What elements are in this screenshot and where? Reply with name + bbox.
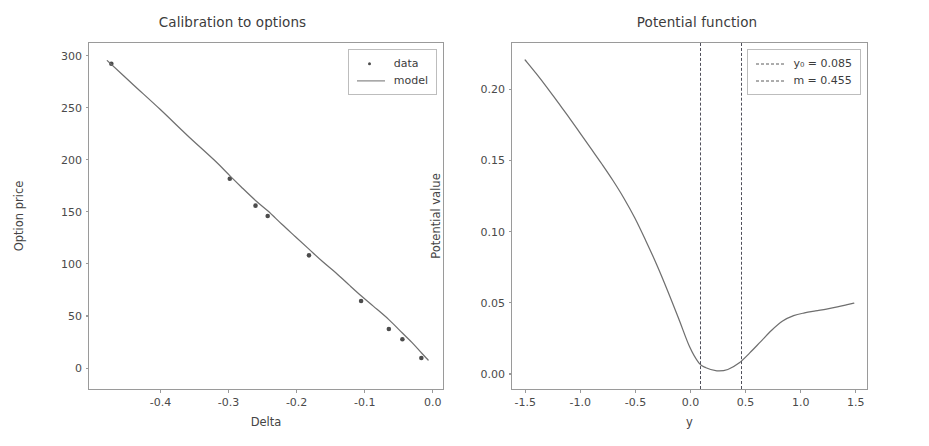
y-tick-mark <box>509 160 513 161</box>
panel-potential-function: Potential function 0.000.050.100.150.20 … <box>465 0 929 446</box>
x-tick-label: 1.0 <box>792 396 810 409</box>
data-point <box>387 327 392 332</box>
y-axis-label-right: Potential value <box>428 173 442 258</box>
y-tick-mark <box>86 55 90 56</box>
x-tick-label: -0.4 <box>150 396 171 409</box>
x-tick-label: -0.2 <box>286 396 307 409</box>
dashdot-line-icon-2 <box>754 74 786 88</box>
series-line-model <box>107 61 428 360</box>
y-tick-mark <box>509 231 513 232</box>
y-tick-label: 0.20 <box>481 83 506 96</box>
x-tick-mark <box>525 389 526 393</box>
legend-label-model: model <box>394 74 428 87</box>
y-tick-mark <box>86 159 90 160</box>
y-tick-label: 250 <box>61 101 82 114</box>
vline-m <box>741 43 742 389</box>
x-tick-label: -1.0 <box>570 396 591 409</box>
x-tick-mark <box>855 389 856 393</box>
y-tick-label: 150 <box>61 205 82 218</box>
y-tick-label: 50 <box>68 309 82 322</box>
y-tick-label: 0.10 <box>481 225 506 238</box>
x-tick-mark <box>635 389 636 393</box>
y-tick-mark <box>86 315 90 316</box>
x-tick-label: 0.5 <box>737 396 755 409</box>
y-tick-label: 0 <box>75 362 82 375</box>
x-tick-mark <box>296 389 297 393</box>
legend-label-y0: y₀ = 0.085 <box>793 57 852 70</box>
y-tick-label: 300 <box>61 49 82 62</box>
y-tick-label: 0.15 <box>481 154 506 167</box>
y-tick-mark <box>86 368 90 369</box>
y-tick-mark <box>86 107 90 108</box>
x-tick-mark <box>745 389 746 393</box>
y-axis-label-left: Option price <box>13 181 27 252</box>
x-tick-label: 0.0 <box>682 396 700 409</box>
x-tick-mark <box>228 389 229 393</box>
y-tick-label: 200 <box>61 153 82 166</box>
legend-item-y0: y₀ = 0.085 <box>754 55 852 72</box>
x-tick-mark <box>432 389 433 393</box>
series-line-potential <box>525 60 854 371</box>
legend-right: y₀ = 0.085 m = 0.455 <box>747 49 861 95</box>
dashdot-line-icon <box>754 57 786 71</box>
x-tick-label: -0.3 <box>218 396 239 409</box>
data-point <box>253 203 258 208</box>
marker-dot-icon <box>355 57 387 71</box>
x-axis-label-left: Delta <box>89 415 443 429</box>
data-point <box>400 337 405 342</box>
y-tick-mark <box>509 302 513 303</box>
data-point <box>307 253 312 258</box>
panel-calibration-to-options: Calibration to options 05010015020025030… <box>0 0 465 446</box>
legend-label-m: m = 0.455 <box>793 74 851 87</box>
x-tick-mark <box>364 389 365 393</box>
x-tick-label: 1.5 <box>847 396 865 409</box>
y-tick-label: 0.05 <box>481 296 506 309</box>
x-tick-mark <box>160 389 161 393</box>
legend-left: data model <box>348 49 437 95</box>
legend-item-model: model <box>355 72 428 89</box>
x-tick-mark <box>690 389 691 393</box>
data-point <box>359 299 364 304</box>
x-tick-mark <box>580 389 581 393</box>
x-tick-label: -1.5 <box>514 396 535 409</box>
vline-y0 <box>700 43 701 389</box>
y-tick-label: 100 <box>61 257 82 270</box>
page-title-right: Potential function <box>465 14 929 30</box>
data-point <box>265 214 270 219</box>
y-tick-label: 0.00 <box>481 367 506 380</box>
plot-area-potential: 0.000.050.100.150.20 -1.5-1.0-0.50.00.51… <box>511 42 868 390</box>
y-tick-mark <box>509 373 513 374</box>
y-tick-mark <box>86 263 90 264</box>
y-tick-mark <box>86 211 90 212</box>
legend-item-m: m = 0.455 <box>754 72 852 89</box>
y-tick-mark <box>509 89 513 90</box>
plot-area-calibration: 050100150200250300 -0.4-0.3-0.2-0.10.0 D… <box>88 42 444 390</box>
x-tick-label: 0.0 <box>424 396 442 409</box>
legend-label-data: data <box>394 57 419 70</box>
x-tick-mark <box>800 389 801 393</box>
matplotlib-figure: Calibration to options 05010015020025030… <box>0 0 929 446</box>
page-title-left: Calibration to options <box>0 14 465 30</box>
solid-line-icon <box>355 74 387 88</box>
legend-item-data: data <box>355 55 428 72</box>
x-tick-label: -0.1 <box>354 396 375 409</box>
data-point <box>419 356 424 361</box>
x-axis-label-right: y <box>512 415 867 429</box>
x-tick-label: -0.5 <box>625 396 646 409</box>
